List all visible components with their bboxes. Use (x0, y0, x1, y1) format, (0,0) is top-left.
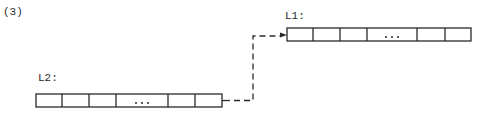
arrowhead-icon (280, 33, 287, 38)
dashed-connector (222, 36, 281, 101)
diagram-canvas (0, 0, 498, 118)
array-l1 (287, 28, 471, 41)
array-l1-ellipsis (385, 36, 399, 38)
array-l2 (36, 94, 222, 107)
array-l2-ellipsis (135, 102, 149, 104)
array-l1-outline (287, 28, 471, 41)
array-l2-outline (36, 94, 222, 107)
